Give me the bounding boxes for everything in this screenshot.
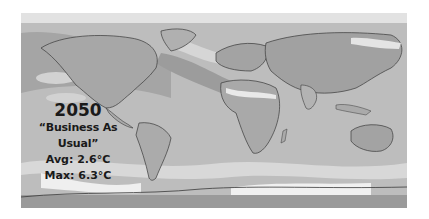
year-label: 2050	[18, 100, 138, 120]
max-temperature-label: Max: 6.3°C	[18, 168, 138, 184]
avg-temperature-label: Avg: 2.6°C	[18, 152, 138, 168]
scenario-label: “Business As Usual”	[18, 120, 138, 152]
scenario-caption: 2050 “Business As Usual” Avg: 2.6°C Max:…	[18, 100, 138, 184]
